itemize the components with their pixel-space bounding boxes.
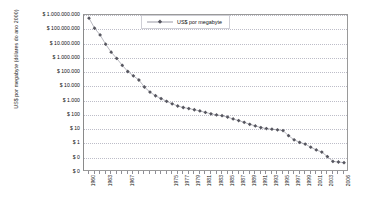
data-point-marker	[264, 127, 268, 131]
data-point-marker	[314, 148, 318, 152]
x-axis-tick-mark	[243, 171, 244, 174]
data-point-marker	[192, 108, 196, 112]
x-axis-tick-mark	[204, 171, 205, 174]
x-axis-tick-mark	[282, 171, 283, 174]
x-axis-tick-mark	[315, 171, 316, 174]
y-axis-tick-labels: $ 1.000.000.000$ 100.000.000$ 10.000.000…	[14, 14, 80, 171]
x-axis-tick-label: 1997	[295, 175, 301, 186]
y-axis-tick-label: $ 1	[73, 139, 80, 145]
chart-legend: US$ por megabyte	[141, 15, 230, 29]
x-axis-tick-label: 2006	[345, 175, 351, 186]
x-axis-tick-mark	[326, 171, 327, 174]
x-axis-tick-mark	[210, 171, 211, 174]
chart-container: US$ por megabyte (dólares do ano 2000) $…	[0, 0, 366, 219]
data-point-marker	[215, 113, 219, 117]
x-axis-tick-label: 1983	[218, 175, 224, 186]
x-axis-tick-mark	[166, 171, 167, 174]
x-axis-tick-mark	[132, 171, 133, 174]
legend-marker-icon	[147, 19, 173, 25]
x-axis-tick-label: 1999	[306, 175, 312, 186]
x-axis-tick-mark	[221, 171, 222, 174]
data-point-marker	[209, 112, 213, 116]
series-line	[89, 18, 344, 163]
x-axis-tick-mark	[271, 171, 272, 174]
x-axis-tick-mark	[160, 171, 161, 174]
data-series-layer	[84, 15, 347, 170]
x-axis-tick-mark	[199, 171, 200, 174]
data-point-marker	[248, 122, 252, 126]
data-point-marker	[303, 142, 307, 146]
x-axis-tick-mark	[127, 171, 128, 174]
y-axis-tick-label: $ 100.000	[57, 68, 80, 74]
x-axis-tick-label: 1975	[173, 175, 179, 186]
data-point-marker	[159, 97, 163, 101]
x-axis-tick-label: 1977	[184, 175, 190, 186]
data-point-marker	[259, 126, 263, 130]
y-axis-tick-label: $ 100.000.000	[47, 25, 80, 31]
data-point-marker	[270, 127, 274, 131]
data-point-marker	[237, 119, 241, 123]
x-axis-tick-mark	[188, 171, 189, 174]
y-axis-tick-label: $ 100	[67, 111, 80, 117]
data-point-marker	[176, 104, 180, 108]
x-axis-tick-mark	[288, 171, 289, 174]
x-axis-tick-mark	[293, 171, 294, 174]
x-axis-tick-label: 2003	[328, 175, 334, 186]
x-axis-tick-mark	[265, 171, 266, 174]
data-point-marker	[198, 109, 202, 113]
data-point-marker	[231, 117, 235, 121]
x-axis-tick-label: 1981	[206, 175, 212, 186]
x-axis-tick-mark	[149, 171, 150, 174]
x-axis-tick-mark	[143, 171, 144, 174]
data-point-marker	[342, 161, 346, 165]
y-axis-tick-label: $ 0	[73, 154, 80, 160]
data-point-marker	[87, 16, 91, 20]
data-point-marker	[309, 145, 313, 149]
x-axis-tick-label: 1989	[251, 175, 257, 186]
x-axis-tick-mark	[216, 171, 217, 174]
data-point-marker	[165, 99, 169, 103]
x-axis-tick-label: 1995	[284, 175, 290, 186]
x-axis-tick-label: 1979	[195, 175, 201, 186]
x-axis-tick-mark	[138, 171, 139, 174]
y-axis-tick-label: $ 10.000.000	[50, 40, 80, 46]
x-axis-tick-mark	[99, 171, 100, 174]
data-point-marker	[154, 94, 158, 98]
x-axis-tick-mark	[121, 171, 122, 174]
data-point-marker	[220, 114, 224, 118]
data-point-marker	[204, 110, 208, 114]
legend-label: US$ por megabyte	[177, 19, 222, 25]
y-axis-tick-label: $ 1.000	[63, 97, 80, 103]
x-axis-tick-mark	[110, 171, 111, 174]
x-axis-tick-mark	[182, 171, 183, 174]
x-axis-tick-mark	[238, 171, 239, 174]
x-axis-tick-mark	[332, 171, 333, 174]
x-axis-tick-label: 1993	[273, 175, 279, 186]
data-point-marker	[276, 128, 280, 132]
data-point-marker	[226, 115, 230, 119]
x-axis-tick-label: 1991	[262, 175, 268, 186]
x-axis-tick-label: 1985	[229, 175, 235, 186]
x-axis-tick-mark	[321, 171, 322, 174]
plot-area	[83, 14, 348, 171]
x-axis-tick-mark	[310, 171, 311, 174]
x-axis-tick-mark	[343, 171, 344, 174]
y-axis-tick-label: $ 1.000.000	[53, 54, 80, 60]
x-axis-tick-mark	[260, 171, 261, 174]
y-axis-tick-label: $ 0	[73, 168, 80, 174]
y-axis-tick-label: $ 10	[70, 125, 80, 131]
y-axis-tick-label: $ 10.000	[60, 82, 80, 88]
x-axis-tick-mark	[94, 171, 95, 174]
x-axis-tick-label: 1960	[90, 175, 96, 186]
data-point-marker	[187, 107, 191, 111]
x-axis-tick-mark	[227, 171, 228, 174]
x-axis-tick-mark	[304, 171, 305, 174]
data-point-marker	[181, 106, 185, 110]
x-axis-tick-label: 1967	[129, 175, 135, 186]
x-axis-tick-mark	[249, 171, 250, 174]
x-axis-tick-label: 1987	[240, 175, 246, 186]
x-axis-tick-mark	[193, 171, 194, 174]
x-axis-tick-mark	[232, 171, 233, 174]
x-axis-tick-mark	[171, 171, 172, 174]
series-svg	[84, 15, 348, 171]
